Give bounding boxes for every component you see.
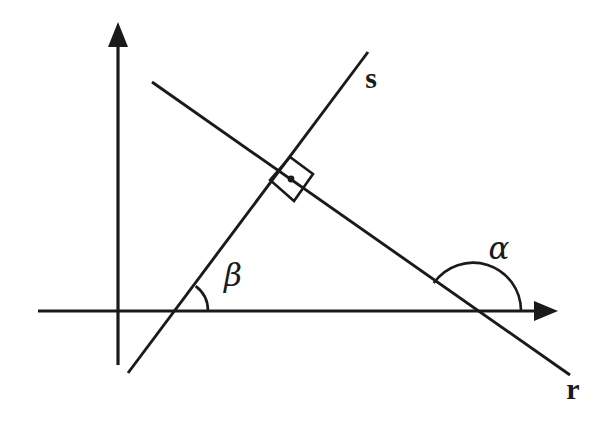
line-label-s: s [365,61,377,94]
right-angle-dot [288,176,295,183]
line-label-r: r [566,372,579,405]
geometry-canvas: s r α β [0,0,600,421]
right-angle-marker [270,157,313,201]
geometry-diagram: s r α β [0,0,600,421]
angle-arc-alpha [434,263,521,311]
y-axis [108,22,128,365]
angle-label-alpha: α [489,230,510,266]
x-axis-arrowhead [534,301,558,321]
angle-label-beta: β [223,257,242,293]
y-axis-arrowhead [108,22,128,47]
line-r [152,82,570,375]
line-s [128,52,368,373]
angle-arc-beta [196,286,208,311]
